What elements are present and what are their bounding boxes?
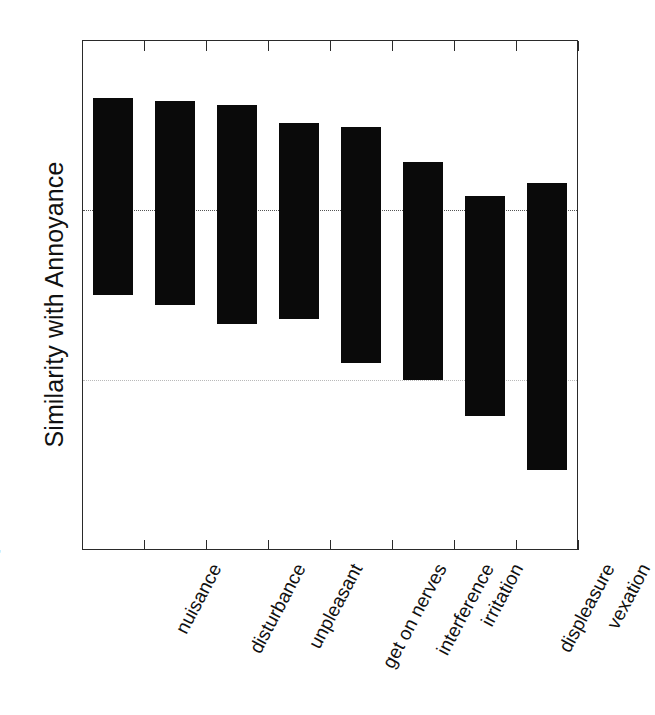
x-tick-top-0 — [144, 41, 145, 51]
y-axis-title: Similarity with Annoyance — [40, 70, 69, 540]
bar-unpleasant — [217, 105, 257, 324]
x-tick-bottom-7 — [578, 540, 579, 550]
bar-irritation — [403, 162, 443, 380]
x-tick-top-3 — [330, 41, 331, 51]
x-axis-label-unpleasant: unpleasant — [304, 560, 367, 652]
x-tick-top-7 — [578, 41, 579, 51]
x-tick-top-2 — [268, 41, 269, 51]
bar-nuisance — [93, 98, 133, 295]
bar-interference — [341, 127, 381, 363]
x-tick-bottom-4 — [392, 540, 393, 550]
x-tick-bottom-3 — [330, 540, 331, 550]
bar-get-on-nerves — [279, 123, 319, 319]
bar-disturbance — [155, 101, 195, 305]
x-axis-label-nuisance: nuisance — [171, 560, 226, 637]
bar-vexation — [527, 183, 567, 470]
x-axis-label-get-on-nerves: get on nerves — [378, 560, 451, 672]
x-tick-top-1 — [206, 41, 207, 51]
x-axis-label-disturbance: disturbance — [245, 560, 311, 657]
bar-displeasure — [465, 196, 505, 415]
x-tick-bottom-5 — [454, 540, 455, 550]
x-tick-bottom-1 — [206, 540, 207, 550]
x-tick-top-5 — [454, 41, 455, 51]
x-tick-bottom-0 — [144, 540, 145, 550]
x-tick-top-4 — [392, 41, 393, 51]
x-tick-bottom-6 — [516, 540, 517, 550]
x-tick-top-6 — [516, 41, 517, 51]
x-tick-bottom-2 — [268, 540, 269, 550]
